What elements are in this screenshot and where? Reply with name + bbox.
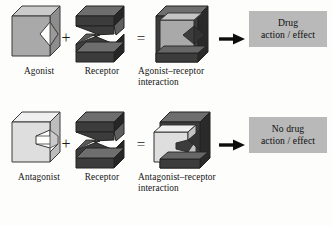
agonist-receptor-complex	[152, 4, 218, 66]
right-arrow-icon	[219, 137, 245, 149]
agonist-label: Agonist	[2, 66, 76, 77]
receptor-block	[72, 110, 132, 172]
receptor-block	[72, 4, 132, 66]
receptor-label: Receptor	[68, 172, 136, 183]
right-arrow-icon	[219, 31, 245, 43]
agonist-receptor-label: Agonist–receptor interaction	[130, 66, 240, 88]
no-drug-action-box: No drug action / effect	[249, 117, 327, 153]
complex-label-line-1: Agonist–receptor	[138, 66, 240, 77]
antagonist-receptor-label: Antagonist–receptor interaction	[130, 172, 240, 194]
outcome-line-2: action / effect	[261, 29, 315, 41]
equals-operator: =	[132, 31, 150, 46]
equals-operator: =	[132, 137, 150, 152]
antagonist-row: + =	[0, 106, 332, 219]
outcome-line-2: action / effect	[261, 135, 315, 147]
receptor-label: Receptor	[68, 66, 136, 77]
antagonist-receptor-complex	[152, 110, 218, 172]
drug-action-box: Drug action / effect	[249, 11, 327, 47]
complex-label-line-2: interaction	[138, 183, 240, 194]
complex-label-line-1: Antagonist–receptor	[138, 172, 240, 183]
receptor-interaction-diagram: + =	[0, 0, 332, 226]
agonist-row: + =	[0, 0, 332, 113]
complex-label-line-2: interaction	[138, 77, 240, 88]
antagonist-label: Antagonist	[2, 172, 76, 183]
outcome-line-1: No drug	[272, 123, 304, 135]
outcome-line-1: Drug	[278, 17, 298, 29]
